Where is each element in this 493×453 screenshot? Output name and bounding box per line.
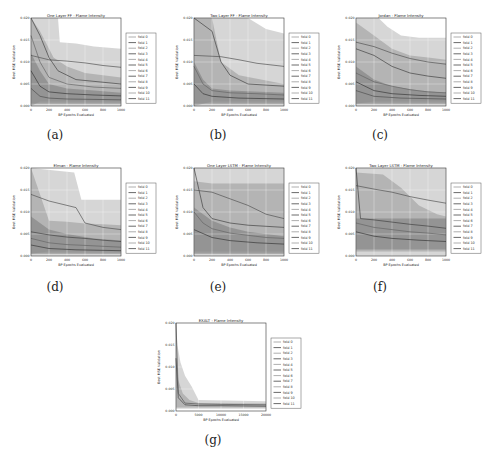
- x-tick-label: 600: [407, 108, 413, 112]
- legend: fold 0fold 1fold 2fold 3fold 4fold 5fold…: [451, 33, 481, 103]
- y-tick-label: 0.020: [183, 16, 192, 20]
- x-tick-label: 1000: [117, 108, 125, 112]
- x-tick-label: 0: [193, 258, 195, 262]
- x-tick-label: 1000: [280, 108, 288, 112]
- legend-entry: fold 7: [138, 74, 148, 78]
- x-tick-label: 600: [245, 258, 251, 262]
- legend-entry: fold 5: [301, 63, 311, 67]
- y-tick-label: 0.015: [345, 38, 354, 42]
- subfigure-caption: (d): [40, 280, 70, 294]
- x-tick-label: 1000: [442, 258, 450, 262]
- x-tick-label: 1000: [117, 258, 125, 262]
- x-tick-label: 1000: [442, 108, 450, 112]
- x-tick-label: 800: [263, 108, 269, 112]
- y-tick-label: 0.005: [183, 82, 192, 86]
- subfigure-caption: (f): [365, 280, 395, 294]
- chart-title: One Layer LSTM - Flame Intensity: [207, 163, 272, 168]
- x-axis-label: BP Epochs Evaluated: [58, 263, 94, 267]
- x-tick-label: 400: [389, 108, 395, 112]
- chart-panel: 020040060080010000.0000.0050.0100.0150.0…: [330, 153, 490, 282]
- x-tick-label: 400: [227, 108, 233, 112]
- y-axis-label: Best MSE Validation: [337, 45, 341, 79]
- legend-entry: fold 1: [463, 191, 473, 195]
- legend-entry: fold 5: [138, 63, 148, 67]
- chart-svg: 020040060080010000.0000.0050.0100.0150.0…: [168, 153, 328, 278]
- legend-entry: fold 2: [138, 46, 148, 50]
- legend: fold 0fold 1fold 2fold 3fold 4fold 5fold…: [126, 183, 156, 253]
- legend-entry: fold 3: [463, 52, 473, 56]
- y-tick-label: 0.010: [345, 60, 354, 64]
- legend-entry: fold 0: [301, 35, 311, 39]
- legend-entry: fold 11: [463, 247, 475, 251]
- legend-entry: fold 2: [138, 196, 148, 200]
- legend-entry: fold 0: [283, 340, 293, 344]
- chart-svg: 020040060080010000.0000.0050.0100.0150.0…: [5, 153, 165, 278]
- y-axis-label: Best MSE Validation: [175, 45, 179, 79]
- chart-panel: 050001000015000200000.0000.0050.0100.015…: [150, 308, 310, 437]
- x-tick-label: 400: [389, 258, 395, 262]
- x-tick-label: 20000: [261, 413, 271, 417]
- legend-entry: fold 3: [138, 202, 148, 206]
- y-tick-label: 0.020: [20, 166, 29, 170]
- y-tick-label: 0.005: [20, 82, 29, 86]
- legend-entry: fold 5: [301, 213, 311, 217]
- x-tick-label: 10000: [216, 413, 226, 417]
- legend-entry: fold 2: [301, 46, 311, 50]
- subfigure-caption: (e): [203, 280, 233, 294]
- x-tick-label: 800: [100, 108, 106, 112]
- subfigure-caption: (b): [203, 128, 233, 142]
- y-tick-label: 0.010: [183, 210, 192, 214]
- y-tick-label: 0.015: [20, 188, 29, 192]
- chart-panel: 020040060080010000.0000.0050.0100.0150.0…: [5, 3, 165, 132]
- x-tick-label: 200: [46, 108, 52, 112]
- legend-entry: fold 11: [138, 97, 150, 101]
- x-tick-label: 0: [193, 108, 195, 112]
- chart-title: Two Layer LSTM - Flame Intensity: [368, 163, 433, 168]
- y-tick-label: 0.015: [183, 38, 192, 42]
- x-tick-label: 600: [82, 108, 88, 112]
- x-axis-label: BP Epochs Evaluated: [58, 113, 94, 117]
- legend-entry: fold 7: [301, 74, 311, 78]
- legend-entry: fold 1: [301, 41, 311, 45]
- x-tick-label: 5000: [194, 413, 202, 417]
- legend-entry: fold 5: [463, 213, 473, 217]
- subfigure-caption: (g): [198, 433, 228, 447]
- legend-entry: fold 9: [463, 86, 473, 90]
- y-tick-label: 0.000: [183, 254, 192, 258]
- y-tick-label: 0.000: [345, 104, 354, 108]
- chart-title: Jordan - Flame Intensity: [377, 13, 424, 18]
- x-tick-label: 0: [355, 258, 357, 262]
- y-tick-label: 0.020: [165, 321, 174, 325]
- legend-entry: fold 3: [463, 202, 473, 206]
- legend-entry: fold 4: [301, 58, 311, 62]
- x-tick-label: 0: [30, 258, 32, 262]
- legend-entry: fold 10: [301, 241, 313, 245]
- legend-entry: fold 10: [138, 241, 150, 245]
- legend-entry: fold 3: [301, 202, 311, 206]
- legend: fold 0fold 1fold 2fold 3fold 4fold 5fold…: [451, 183, 481, 253]
- legend-entry: fold 6: [138, 219, 148, 223]
- y-tick-label: 0.015: [165, 343, 174, 347]
- legend-entry: fold 11: [138, 247, 150, 251]
- legend-entry: fold 7: [301, 224, 311, 228]
- legend-entry: fold 10: [463, 91, 475, 95]
- legend-entry: fold 9: [138, 86, 148, 90]
- legend-entry: fold 7: [283, 379, 293, 383]
- y-tick-label: 0.010: [183, 60, 192, 64]
- y-tick-label: 0.000: [165, 409, 174, 413]
- legend-entry: fold 5: [138, 213, 148, 217]
- y-tick-label: 0.015: [183, 188, 192, 192]
- legend-entry: fold 0: [138, 35, 148, 39]
- x-axis-label: BP Epochs Evaluated: [221, 263, 257, 267]
- legend-entry: fold 9: [283, 391, 293, 395]
- legend-entry: fold 1: [283, 346, 293, 350]
- legend-entry: fold 9: [138, 236, 148, 240]
- legend-entry: fold 8: [463, 80, 473, 84]
- legend-entry: fold 6: [463, 69, 473, 73]
- x-tick-label: 800: [425, 258, 431, 262]
- x-tick-label: 400: [64, 108, 70, 112]
- chart-title: One Layer FF - Flame Intensity: [47, 13, 106, 18]
- legend-entry: fold 7: [463, 224, 473, 228]
- legend-entry: fold 9: [301, 86, 311, 90]
- chart-svg: 020040060080010000.0000.0050.0100.0150.0…: [5, 3, 165, 128]
